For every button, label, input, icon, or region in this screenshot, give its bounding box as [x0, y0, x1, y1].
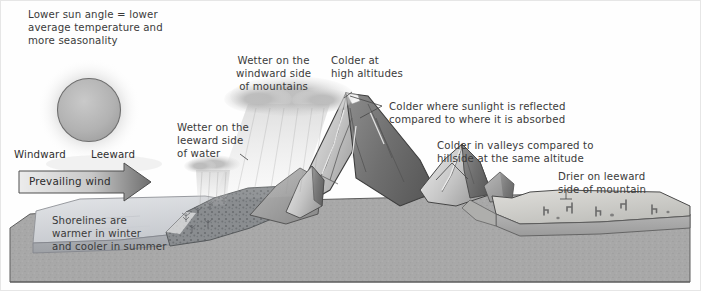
annotation-colder-valleys: Colder in valleys compared to hillside a…	[437, 139, 594, 165]
annotation-colder-high-altitudes: Colder at high altitudes	[331, 54, 403, 80]
annotation-wetter-windward-mountains: Wetter on the windward side of mountains	[236, 54, 311, 94]
annotation-sun-angle: Lower sun angle = lower average temperat…	[28, 8, 163, 48]
sun-icon	[37, 58, 141, 162]
label-windward: Windward	[14, 148, 66, 161]
prevailing-wind-label: Prevailing wind	[29, 175, 111, 187]
label-leeward: Leeward	[91, 148, 135, 161]
climate-diagram: Lower sun angle = lower average temperat…	[0, 0, 701, 291]
annotation-shorelines: Shorelines are warmer in winter and cool…	[52, 214, 167, 254]
annotation-colder-sunlight-reflected: Colder where sunlight is reflected compa…	[389, 100, 566, 126]
annotation-drier-leeward-mountain: Drier on leeward side of mountain	[558, 170, 646, 196]
annotation-wetter-leeward-water: Wetter on the leeward side of water	[177, 121, 249, 161]
